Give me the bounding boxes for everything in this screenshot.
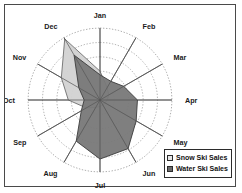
axis-label-nov: Nov	[13, 53, 27, 62]
legend-item-snow-ski-sales[interactable]: Snow Ski Sales	[167, 153, 229, 163]
legend-label-snow: Snow Ski Sales	[176, 154, 227, 162]
axis-label-oct: Oct	[5, 96, 16, 105]
axis-label-mar: Mar	[174, 53, 187, 62]
legend-item-water-ski-sales[interactable]: Water Ski Sales	[167, 164, 229, 174]
legend-swatch-snow	[167, 155, 173, 161]
legend-swatch-water	[167, 166, 173, 172]
axis-spokes-overlay	[28, 28, 172, 172]
axis-label-dec: Dec	[44, 22, 57, 31]
axis-label-apr: Apr	[185, 96, 198, 105]
chart-legend: Snow Ski Sales Water Ski Sales	[164, 149, 232, 178]
legend-label-water: Water Ski Sales	[176, 165, 228, 173]
axis-label-jul: Jul	[95, 181, 105, 188]
chart-frame: JanFebMarAprMayJunJulAugSepOctNovDec Sno…	[4, 4, 236, 187]
axis-label-aug: Aug	[44, 169, 58, 178]
axis-label-sep: Sep	[13, 138, 27, 147]
axis-label-jan: Jan	[94, 11, 106, 20]
axis-label-may: May	[174, 138, 188, 147]
axis-label-feb: Feb	[143, 22, 156, 31]
axis-label-jun: Jun	[143, 169, 156, 178]
